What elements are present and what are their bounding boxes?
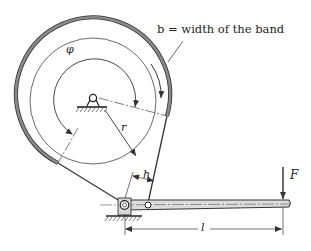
center-lines	[58, 98, 167, 163]
diagram-canvas	[0, 0, 311, 251]
band-width-leader	[168, 41, 183, 62]
drum-pivot	[76, 94, 107, 112]
force-label: F	[290, 168, 298, 182]
h-label: h	[143, 168, 150, 181]
length-label: l	[201, 221, 205, 234]
radius-label: r	[121, 121, 126, 134]
band-width-label: b = width of the band	[157, 22, 284, 36]
wrap-angle-label: φ	[66, 43, 74, 56]
band-brake-diagram: b = width of the band φ r h F l	[0, 0, 311, 251]
band-attachment-pin	[145, 202, 151, 208]
